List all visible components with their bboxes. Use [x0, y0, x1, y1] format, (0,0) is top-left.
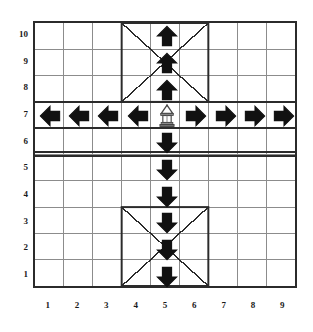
arrow-left-c1-r7 — [35, 103, 64, 130]
x-tick-label-3: 3 — [96, 301, 116, 310]
arrow-left-c2-r7 — [64, 103, 93, 130]
figure-root: 10987654321 123456789 — [0, 0, 313, 332]
arrow-down-c5-r5 — [152, 157, 181, 184]
y-tick-label-5: 5 — [10, 163, 28, 172]
arrow-left-c3-r7 — [94, 103, 123, 130]
arrow-down-icon — [156, 212, 178, 234]
x-tick-label-6: 6 — [184, 301, 204, 310]
y-tick-label-4: 4 — [10, 190, 28, 199]
x-tick-label-5: 5 — [155, 301, 175, 310]
arrow-down-c5-r4 — [152, 183, 181, 210]
grid-plate — [33, 21, 297, 288]
y-tick-label-9: 9 — [10, 57, 28, 66]
arrow-up-icon — [156, 52, 178, 74]
y-tick-label-2: 2 — [10, 243, 28, 252]
arrow-right-c9-r7 — [270, 103, 299, 130]
arrow-right-icon — [185, 105, 207, 127]
arrow-right-c6-r7 — [182, 103, 211, 130]
arrow-left-c4-r7 — [123, 103, 152, 130]
arrow-up-icon — [156, 79, 178, 101]
arrow-left-icon — [97, 105, 119, 127]
x-tick-label-8: 8 — [243, 301, 263, 310]
y-tick-label-1: 1 — [10, 270, 28, 279]
arrow-down-c5-r3 — [152, 210, 181, 237]
y-tick-label-10: 10 — [10, 30, 28, 39]
arrow-right-icon — [273, 105, 295, 127]
y-tick-label-3: 3 — [10, 217, 28, 226]
arrow-down-icon — [156, 186, 178, 208]
arrow-up-c5-r9 — [152, 50, 181, 77]
x-tick-label-1: 1 — [38, 301, 58, 310]
arrow-down-icon — [156, 239, 178, 261]
arrow-up-c5-r10 — [152, 23, 181, 50]
arrow-right-c7-r7 — [211, 103, 240, 130]
x-tick-label-7: 7 — [214, 301, 234, 310]
arrow-down-c5-r2 — [152, 237, 181, 264]
arrow-down-icon — [156, 132, 178, 154]
arrow-down-icon — [156, 266, 178, 288]
lamp-icon — [157, 104, 177, 128]
y-tick-label-7: 7 — [10, 110, 28, 119]
arrow-right-c8-r7 — [240, 103, 269, 130]
arrow-left-icon — [39, 105, 61, 127]
arrow-left-icon — [68, 105, 90, 127]
arrow-left-icon — [127, 105, 149, 127]
arrow-down-c5-r6 — [152, 130, 181, 157]
arrow-down-c5-r1 — [152, 263, 181, 290]
x-tick-label-9: 9 — [272, 301, 292, 310]
arrow-right-icon — [215, 105, 237, 127]
arrow-down-icon — [156, 159, 178, 181]
y-tick-label-6: 6 — [10, 137, 28, 146]
arrow-right-icon — [244, 105, 266, 127]
source-lamp — [152, 103, 181, 130]
arrow-up-icon — [156, 25, 178, 47]
y-tick-label-8: 8 — [10, 83, 28, 92]
x-tick-label-4: 4 — [126, 301, 146, 310]
arrow-up-c5-r8 — [152, 76, 181, 103]
x-tick-label-2: 2 — [67, 301, 87, 310]
